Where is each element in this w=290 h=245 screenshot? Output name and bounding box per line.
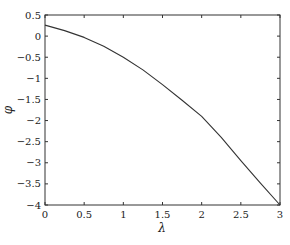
y-tick-label: −3 xyxy=(26,157,41,168)
y-tick-label: −0.5 xyxy=(17,52,41,63)
x-tick-label: 0 xyxy=(42,209,48,220)
x-axis-label: λ xyxy=(157,221,166,235)
line-chart: 00.511.522.53 0.50−0.5−1−1.5−2−2.5−3−3.5… xyxy=(0,0,290,245)
x-axis-ticks: 00.511.522.53 xyxy=(42,15,283,220)
x-tick-label: 3 xyxy=(277,209,283,220)
series-line xyxy=(45,25,280,205)
y-tick-label: −2 xyxy=(26,115,41,126)
x-tick-label: 1 xyxy=(120,209,126,220)
x-tick-label: 2 xyxy=(198,209,204,220)
x-tick-label: 2.5 xyxy=(233,209,249,220)
y-tick-label: −4 xyxy=(26,200,41,211)
y-axis-label: φ xyxy=(1,105,15,114)
y-tick-label: −1 xyxy=(26,73,41,84)
y-tick-label: 0.5 xyxy=(25,10,41,21)
data-series xyxy=(45,25,280,205)
axes-box xyxy=(45,15,280,205)
y-tick-label: −2.5 xyxy=(17,136,41,147)
y-tick-label: −1.5 xyxy=(17,94,41,105)
y-tick-label: −3.5 xyxy=(17,178,41,189)
y-axis-ticks: 0.50−0.5−1−1.5−2−2.5−3−3.5−4 xyxy=(17,10,280,211)
x-tick-label: 1.5 xyxy=(155,209,171,220)
y-tick-label: 0 xyxy=(35,31,41,42)
plot-frame xyxy=(45,15,280,205)
x-tick-label: 0.5 xyxy=(76,209,92,220)
